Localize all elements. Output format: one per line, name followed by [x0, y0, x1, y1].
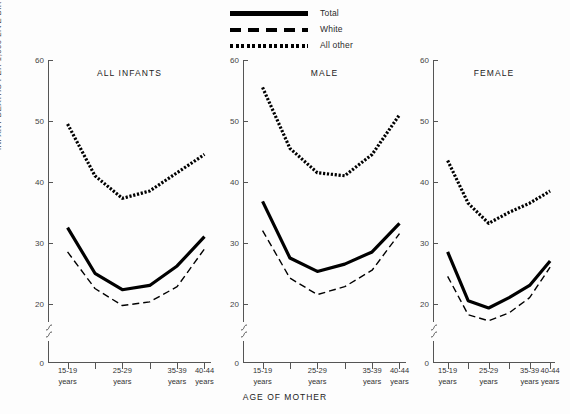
x-tick-label-range: 25-29: [308, 366, 327, 375]
chart-panel-all-infants: ALL INFANTS0203040506015-19years25-29yea…: [48, 60, 211, 375]
x-axis-line: [243, 362, 406, 363]
y-tick-label: 50: [35, 116, 44, 125]
x-tick: [345, 363, 346, 369]
chart-legend: Total White All other: [230, 6, 430, 54]
x-tick-label-range: 25-29: [479, 366, 498, 375]
x-tick-label-unit: years: [390, 377, 408, 386]
x-tick-label: 15-19years: [240, 365, 286, 387]
chart-figure: Total White All other INFANT DEATHS PER …: [0, 0, 570, 414]
legend-item-all-other: All other: [230, 38, 430, 51]
x-tick-label: 25-29years: [294, 365, 340, 387]
y-tick-label: 50: [230, 116, 239, 125]
x-tick-label-unit: years: [438, 377, 456, 386]
x-tick-label-range: 40-44: [541, 366, 560, 375]
chart-panel-male: MALE0203040506015-19years25-29years35-39…: [243, 60, 406, 375]
y-tick-label: 40: [35, 177, 44, 186]
series-line-all-other: [448, 161, 550, 224]
legend-label-all-other: All other: [320, 40, 353, 50]
y-tick-label: 20: [420, 299, 429, 308]
panel-plot-area: [433, 60, 555, 328]
series-line-white: [448, 267, 550, 321]
x-tick-label: 15-19years: [45, 365, 91, 387]
x-tick-label-range: 25-29: [113, 366, 132, 375]
y-axis-line-lower: [48, 341, 49, 363]
y-axis-line-lower: [433, 341, 434, 363]
y-tick-label: 20: [230, 299, 239, 308]
x-tick-label: 25-29years: [466, 365, 512, 387]
x-tick-label-range: 15-19: [58, 366, 77, 375]
x-axis-line: [433, 362, 555, 363]
legend-key-solid-line: [230, 11, 308, 16]
x-axis-title: AGE OF MOTHER: [0, 392, 570, 402]
x-tick-label-unit: years: [113, 377, 131, 386]
panel-plot-area: [48, 60, 211, 328]
y-tick-label: 50: [420, 116, 429, 125]
y-tick-label: 20: [35, 299, 44, 308]
x-tick-label-range: 40-44: [390, 366, 409, 375]
series-line-all-other: [68, 124, 205, 198]
x-tick-label-unit: years: [58, 377, 76, 386]
x-axis-line: [48, 362, 211, 363]
x-tick-label: 25-29years: [99, 365, 145, 387]
y-tick-label: 40: [230, 177, 239, 186]
x-tick-label-range: 40-44: [195, 366, 214, 375]
y-tick-label: 40: [420, 177, 429, 186]
series-line-all-other: [263, 87, 400, 175]
x-tick-label-unit: years: [253, 377, 271, 386]
y-tick-label: 60: [35, 56, 44, 65]
x-tick: [95, 363, 96, 369]
x-tick-label-unit: years: [541, 377, 559, 386]
x-tick: [150, 363, 151, 369]
x-tick-label: 40-44years: [181, 365, 227, 387]
y-axis-line-lower: [243, 341, 244, 363]
y-tick-label: 60: [420, 56, 429, 65]
series-line-total: [448, 252, 550, 308]
y-axis-title: INFANT DEATHS PER 1,000 LIVE BIRTHS: [0, 0, 3, 150]
chart-panel-female: FEMALE0203040506015-19years25-29years35-…: [433, 60, 555, 375]
x-tick-label: 40-44years: [527, 365, 570, 387]
x-tick-label-unit: years: [195, 377, 213, 386]
y-tick-label: 30: [35, 238, 44, 247]
x-tick: [290, 363, 291, 369]
y-tick-label: 0: [40, 359, 44, 368]
legend-label-white: White: [320, 24, 343, 34]
panel-plot-area: [243, 60, 406, 328]
x-tick-label: 40-44years: [376, 365, 422, 387]
legend-item-white: White: [230, 22, 430, 35]
y-tick-label: 60: [230, 56, 239, 65]
legend-label-total: Total: [320, 8, 339, 18]
legend-item-total: Total: [230, 6, 430, 19]
x-tick-label-range: 15-19: [438, 366, 457, 375]
x-tick-label-unit: years: [308, 377, 326, 386]
x-tick-label-unit: years: [479, 377, 497, 386]
x-tick-label-range: 15-19: [253, 366, 272, 375]
y-tick-label: 30: [420, 238, 429, 247]
y-tick-label: 0: [235, 359, 239, 368]
x-tick-label: 15-19years: [425, 365, 471, 387]
legend-key-dotted-line: [230, 44, 308, 48]
legend-key-dashed-line: [230, 28, 308, 32]
y-tick-label: 30: [230, 238, 239, 247]
